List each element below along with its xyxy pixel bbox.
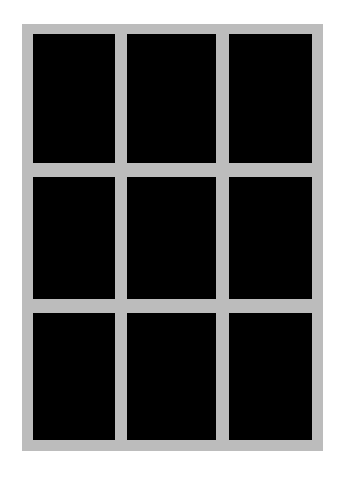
pane-r1-c2: [127, 34, 216, 163]
pane-r1-c3: [229, 34, 312, 163]
pane-r3-c1: [33, 313, 115, 440]
pane-r3-c3: [229, 313, 312, 440]
pane-r2-c2: [127, 177, 216, 299]
grid-frame: [22, 24, 323, 451]
pane-r2-c3: [229, 177, 312, 299]
pane-r2-c1: [33, 177, 115, 299]
pane-r1-c1: [33, 34, 115, 163]
pane-r3-c2: [127, 313, 216, 440]
